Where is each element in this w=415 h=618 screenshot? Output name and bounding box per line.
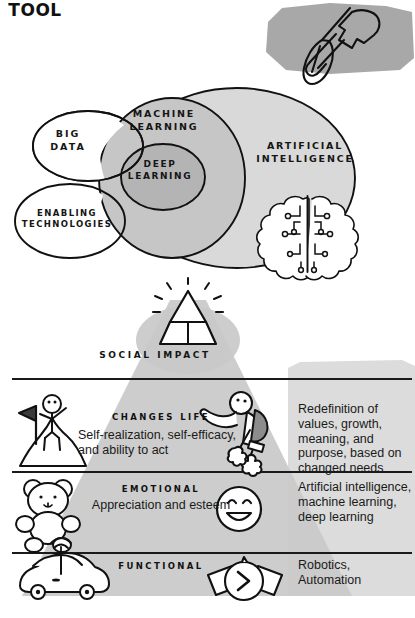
venn-label-ml-line2: LEARNING [108,121,220,134]
row-right-text-functional: Robotics, Automation [298,558,414,588]
infographic-root: { "tool_badge": { "label": "Tool", "icon… [0,0,415,618]
row-right-text-changes-life: Redefinition of values, growth, meaning,… [298,402,414,476]
venn-label-enabling-line2: TECHNOLOGIES [8,219,126,230]
teddy-bear-icon [16,480,80,552]
right-panel-top-notch [288,360,415,374]
venn-label-machine-learning: MACHINE LEARNING [108,108,220,134]
venn-label-dl-line1: DEEP [112,158,208,170]
venn-label-artificial-intelligence: ARTIFICIAL INTELLIGENCE [244,140,366,166]
pyramid-apex-label: SOCIAL IMPACT [70,349,240,361]
venn-label-enabling-technologies: ENABLING TECHNOLOGIES [8,208,126,231]
person-on-mountain-with-flag-icon [19,395,86,466]
venn-label-big-data: BIG DATA [26,128,110,154]
venn-label-big-data-line1: BIG [26,128,110,141]
venn-label-enabling-line1: ENABLING [8,208,126,219]
venn-label-ml-line1: MACHINE [108,108,220,121]
row-title-changes-life: CHANGES LIFE [82,412,240,422]
row-title-functional: FUNCTIONAL [82,561,240,571]
venn-label-deep-learning: DEEP LEARNING [112,158,208,182]
brain-circuit-icon [257,196,358,280]
row-subtitle-emotional: Appreciation and esteem [74,498,248,513]
venn-label-ai-line1: ARTIFICIAL [244,140,366,153]
row-title-emotional: EMOTIONAL [82,484,240,494]
venn-label-big-data-line2: DATA [26,141,110,154]
venn-label-ai-line2: INTELLIGENCE [244,153,366,166]
venn-label-dl-line2: LEARNING [112,170,208,182]
row-subtitle-changes-life: Self-realization, self-efficacy, and abi… [78,428,244,458]
illustration-layer [0,0,415,618]
row-right-text-emotional: Artificial intelligence, machine learnin… [298,480,414,524]
